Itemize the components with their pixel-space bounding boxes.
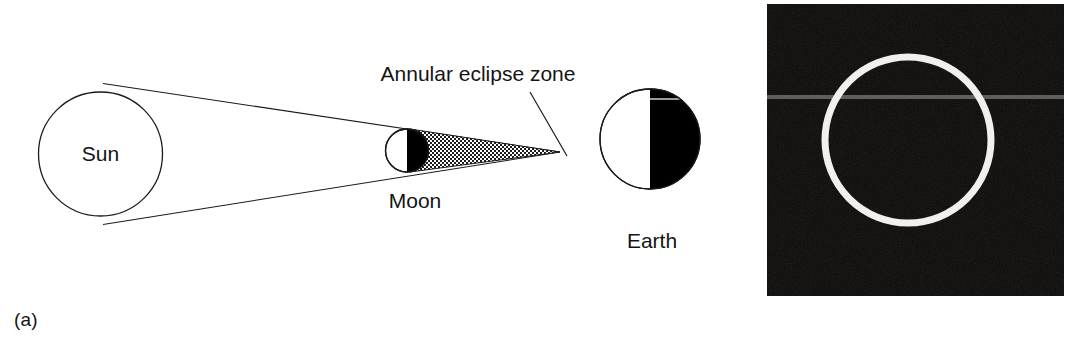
annular-eclipse-photo-svg <box>760 0 1084 300</box>
photo-scanline-artifact <box>767 95 1064 99</box>
antumbra-region <box>410 129 560 172</box>
annular-eclipse-zone-label: Annular eclipse zone <box>381 62 576 85</box>
panel-a-schematic: Sun Moon Earth Annular eclipse zone <box>0 0 760 354</box>
earth-body: Earth <box>600 88 702 252</box>
sun-body: Sun <box>39 92 163 216</box>
photo-frame <box>767 4 1064 296</box>
panel-b-photograph: (b) <box>760 0 1084 354</box>
photo-film-grain <box>767 4 1064 296</box>
sun-label: Sun <box>82 142 119 165</box>
moon-label: Moon <box>389 189 442 212</box>
callout-leader-line <box>530 92 567 156</box>
figure-container: Sun Moon Earth Annular eclipse zone <box>0 0 1084 354</box>
earth-label: Earth <box>627 229 677 252</box>
tangent-line-lower <box>103 152 560 225</box>
panel-a-label: (a) <box>14 309 38 331</box>
eclipse-geometry-svg: Sun Moon Earth Annular eclipse zone <box>0 0 760 300</box>
earth-night-half <box>650 88 702 190</box>
